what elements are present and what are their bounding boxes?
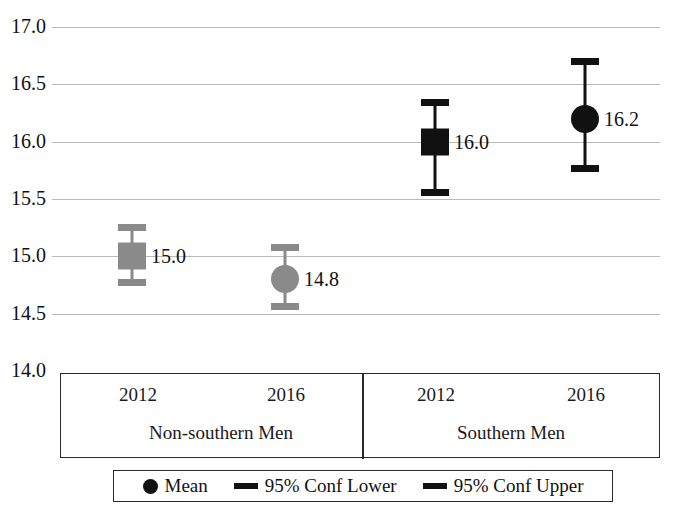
category-year-label: 2012 [396, 384, 476, 406]
data-label: 15.0 [151, 246, 186, 266]
conf-upper-cap [421, 99, 449, 106]
legend-label: 95% Conf Lower [265, 476, 397, 496]
category-year-label: 2016 [546, 384, 626, 406]
mean-marker-circle [271, 265, 299, 293]
category-year-label: 2012 [98, 384, 178, 406]
legend-bar-icon [423, 483, 447, 489]
conf-upper-cap [118, 224, 146, 231]
conf-upper-cap [271, 244, 299, 251]
category-group-label: Southern Men [401, 422, 621, 444]
legend-item: Mean [143, 476, 208, 496]
category-axis-box: 20122016Non-southern Men20122016Southern… [60, 373, 660, 458]
data-label: 16.2 [604, 109, 639, 129]
y-axis-tick-text: 15.0 [0, 245, 46, 265]
y-axis-tick-text: 15.5 [0, 188, 46, 208]
confidence-interval-chart: 17.016.516.015.515.014.514.0 15.014.816.… [0, 0, 676, 521]
y-axis-tick-text: 16.5 [0, 73, 46, 93]
mean-marker-square [421, 128, 449, 155]
y-axis-tick-text: 16.0 [0, 131, 46, 151]
data-label: 14.8 [304, 269, 339, 289]
legend-item: 95% Conf Upper [423, 476, 584, 496]
legend-label: 95% Conf Upper [454, 476, 584, 496]
legend-item: 95% Conf Lower [234, 476, 397, 496]
conf-upper-cap [571, 58, 599, 65]
mean-marker-square [118, 243, 146, 270]
category-year-label: 2016 [246, 384, 326, 406]
y-axis-tick-text: 14.5 [0, 303, 46, 323]
conf-lower-cap [421, 189, 449, 196]
legend-dot-icon [143, 479, 158, 494]
y-axis-tick-text: 14.0 [0, 360, 46, 380]
mean-marker-circle [571, 105, 599, 133]
group-divider [362, 374, 364, 459]
conf-lower-cap [118, 279, 146, 286]
y-axis-tick-text: 17.0 [0, 16, 46, 36]
legend-label: Mean [165, 476, 208, 496]
data-label: 16.0 [454, 132, 489, 152]
category-group-label: Non-southern Men [111, 422, 331, 444]
conf-lower-cap [271, 303, 299, 310]
legend-bar-icon [234, 483, 258, 489]
conf-lower-cap [571, 165, 599, 172]
chart-legend: Mean95% Conf Lower95% Conf Upper [113, 470, 613, 502]
plot-area: 15.014.816.016.2 [52, 0, 660, 372]
